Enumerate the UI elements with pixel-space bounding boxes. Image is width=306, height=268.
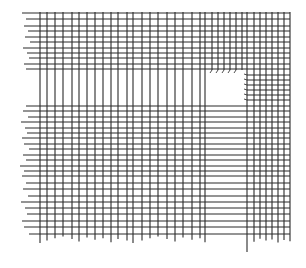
hook-mark — [210, 70, 212, 73]
hook-mark — [216, 70, 218, 73]
grid-drawing — [0, 0, 306, 268]
hook-mark — [222, 70, 224, 73]
horizontal-lines — [20, 13, 290, 234]
hook-mark — [228, 70, 230, 73]
notch-hooks — [210, 70, 247, 100]
hook-mark — [234, 70, 236, 73]
